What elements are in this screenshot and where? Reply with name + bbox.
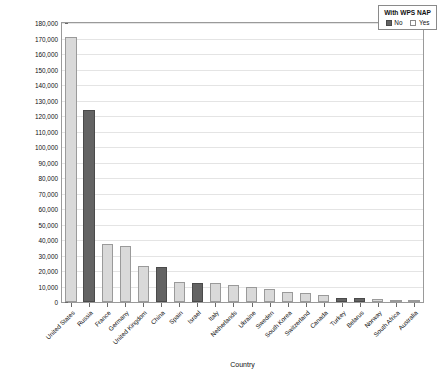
bar-slot [390,23,401,302]
y-tick-label: 40,000 [12,237,58,244]
legend: With WPS NAP NoYes [378,5,437,30]
bar[interactable] [300,293,311,302]
legend-item[interactable]: Yes [410,19,429,26]
x-tick-label-text: Italy [207,309,220,322]
bar-slot [156,23,167,302]
y-tick-label: 170,000 [12,35,58,42]
legend-swatch [410,20,416,26]
bar-slot [300,23,311,302]
x-tick-mark [125,303,126,307]
bar-slot [336,23,347,302]
legend-label: No [394,19,402,26]
x-tick-mark [161,303,162,307]
bar[interactable] [354,298,365,302]
legend-item[interactable]: No [386,19,403,26]
x-tick-mark [233,303,234,307]
x-axis-title: Country [61,361,424,368]
y-tick-label: 70,000 [12,190,58,197]
x-tick-mark [143,303,144,307]
x-tick-mark [179,303,180,307]
legend-swatch [386,20,392,26]
bar-slot [408,23,419,302]
bar[interactable] [390,300,401,302]
x-tick-mark [215,303,216,307]
x-tick-mark [107,303,108,307]
y-tick-label: 90,000 [12,159,58,166]
y-tick-label: 10,000 [12,283,58,290]
legend-title: With WPS NAP [384,9,431,16]
bar-slot [65,23,76,302]
bar[interactable] [228,285,239,302]
bar-slot [354,23,365,302]
bar[interactable] [65,37,76,302]
x-tick-mark [396,303,397,307]
bar[interactable] [210,283,221,302]
bar[interactable] [156,267,167,302]
bar-slot [228,23,239,302]
x-tick-mark [414,303,415,307]
bar[interactable] [318,295,329,302]
bar[interactable] [138,266,149,302]
bar[interactable] [282,292,293,302]
bar[interactable] [83,110,94,302]
y-tick-label: 180,000 [12,20,58,27]
y-tick-label: 130,000 [12,97,58,104]
y-tick-label: 50,000 [12,221,58,228]
x-tick-mark [197,303,198,307]
x-tick-mark [342,303,343,307]
bar[interactable] [408,300,419,302]
bar-slot [318,23,329,302]
y-tick-label: 150,000 [12,66,58,73]
bar-slot [102,23,113,302]
x-tick-mark [71,303,72,307]
bar[interactable] [336,298,347,302]
y-tick-label: 140,000 [12,82,58,89]
bar-chart: Total TIV 2000–2020 010,00020,00030,0004… [0,0,442,383]
bar-slot [120,23,131,302]
bar[interactable] [192,283,203,302]
bar[interactable] [174,282,185,302]
bar[interactable] [102,244,113,302]
x-tick-mark [89,303,90,307]
bar-slot [174,23,185,302]
y-tick-label: 160,000 [12,51,58,58]
x-tick-mark [360,303,361,307]
legend-items: NoYes [384,19,431,26]
bar-slot [246,23,257,302]
bar-slot [83,23,94,302]
bars-layer [62,23,423,302]
bar[interactable] [264,289,275,302]
y-tick-label: 20,000 [12,268,58,275]
y-axis-ticks: 010,00020,00030,00040,00050,00060,00070,… [8,22,58,303]
y-tick-label: 110,000 [12,128,58,135]
bar-slot [192,23,203,302]
bar-slot [264,23,275,302]
bar-slot [282,23,293,302]
bar[interactable] [372,299,383,302]
y-tick-label: 60,000 [12,206,58,213]
x-tick-mark [270,303,271,307]
x-tick-mark [378,303,379,307]
y-tick-mark [65,302,68,303]
x-tick-mark [288,303,289,307]
x-tick-mark [252,303,253,307]
legend-label: Yes [419,19,429,26]
bar-slot [138,23,149,302]
x-tick-mark [306,303,307,307]
y-tick-label: 100,000 [12,144,58,151]
bar-slot [372,23,383,302]
bar[interactable] [246,287,257,302]
y-tick-label: 30,000 [12,252,58,259]
bar[interactable] [120,246,131,302]
bar-slot [210,23,221,302]
y-tick-label: 80,000 [12,175,58,182]
y-tick-label: 0 [12,299,58,306]
y-tick-label: 120,000 [12,113,58,120]
x-tick-mark [324,303,325,307]
